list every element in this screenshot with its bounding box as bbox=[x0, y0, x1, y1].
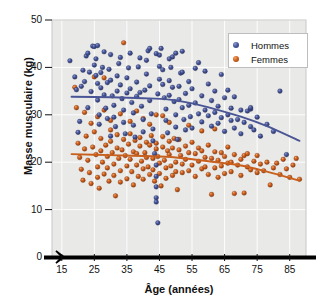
y-tick-label: 0 bbox=[12, 251, 42, 262]
x-tick-label: 35 bbox=[114, 264, 140, 275]
x-tick-label: 15 bbox=[49, 264, 75, 275]
y-tick-label: 50 bbox=[12, 14, 42, 25]
x-axis-title: Âge (années) bbox=[52, 283, 306, 295]
y-axis-ticks bbox=[45, 20, 52, 210]
legend-marker-femmes bbox=[233, 56, 239, 62]
x-tick-label: 55 bbox=[179, 264, 205, 275]
legend-label-femmes: Femmes bbox=[251, 54, 288, 65]
x-tick-label: 65 bbox=[212, 264, 238, 275]
legend-label-hommes: Hommes bbox=[251, 40, 289, 51]
y-axis-title: Masse musculaire (kg) bbox=[22, 36, 34, 196]
legend-item-femmes: Femmes bbox=[233, 52, 288, 66]
x-tick-label: 45 bbox=[146, 264, 172, 275]
legend-item-hommes: Hommes bbox=[233, 38, 289, 52]
x-tick-label: 75 bbox=[244, 264, 270, 275]
legend-marker-hommes bbox=[233, 42, 239, 48]
scatter-chart-figure: 50403020100 1525354555657585 Masse muscu… bbox=[0, 0, 329, 304]
x-tick-label: 85 bbox=[277, 264, 303, 275]
legend: Hommes Femmes bbox=[228, 33, 308, 68]
x-tick-label: 25 bbox=[81, 264, 107, 275]
y-tick-label: 10 bbox=[12, 204, 42, 215]
